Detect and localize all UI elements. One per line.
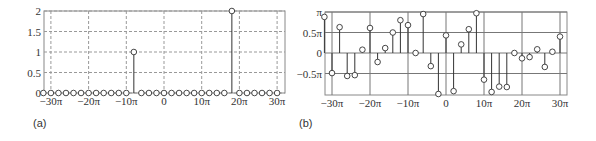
stem-marker (267, 90, 273, 96)
stem-marker (161, 90, 167, 96)
x-tick-label: 0 (443, 97, 449, 109)
stem-marker (413, 50, 419, 56)
stem-marker (199, 90, 205, 96)
stem-marker (344, 73, 350, 79)
stem-marker (184, 90, 190, 96)
panel-b-label: (b) (299, 117, 312, 129)
x-tick-label: −30π (321, 97, 344, 109)
stem-marker (398, 17, 404, 23)
stem-marker (124, 90, 130, 96)
stem-marker (557, 34, 563, 40)
stem-marker (116, 90, 122, 96)
chart-panel-a: −30π−20π−10π010π20π30π00.511.52 (27, 5, 286, 107)
stem-marker (259, 90, 265, 96)
stem-marker (71, 90, 77, 96)
stem-marker (329, 70, 335, 76)
stem-marker (191, 90, 197, 96)
stem-marker (352, 72, 358, 78)
stem-marker (131, 49, 137, 55)
stem-marker (63, 90, 69, 96)
stem-marker (41, 90, 47, 96)
x-tick-label: −30π (40, 95, 63, 107)
x-tick-label: 0 (161, 95, 167, 107)
stem-marker (527, 54, 533, 60)
stem-marker (512, 50, 518, 56)
stem-marker (214, 90, 220, 96)
stem-marker (466, 26, 472, 32)
stem-marker (48, 90, 54, 96)
stem-marker (504, 84, 510, 90)
stem-marker (451, 88, 457, 94)
stem-marker (481, 77, 487, 83)
stem-marker (244, 90, 250, 96)
x-tick-label: 10π (193, 95, 210, 107)
x-tick-label: −20π (359, 97, 382, 109)
stem-marker (322, 14, 328, 20)
stem-marker (56, 90, 62, 96)
stem-marker (176, 90, 182, 96)
x-tick-label: 20π (231, 95, 248, 107)
y-tick-label: 0 (317, 47, 323, 59)
stem-marker (496, 84, 502, 90)
stem-marker (428, 63, 434, 69)
x-tick-label: 20π (514, 97, 531, 109)
stem-marker (101, 90, 107, 96)
stem-marker (154, 90, 160, 96)
stem-marker (146, 90, 152, 96)
stem-marker (542, 64, 548, 70)
y-tick-label: 0.5π (303, 27, 323, 39)
chart-panel-b: −30π−20π−10π010π20π30ππ0.5π0−0.5π (296, 6, 568, 109)
stem-marker (382, 45, 388, 51)
stem-marker (337, 24, 343, 30)
stem-marker (274, 90, 280, 96)
stem-marker (93, 90, 99, 96)
stem-marker (420, 11, 426, 17)
stem-marker (229, 8, 235, 14)
x-tick-label: −20π (77, 95, 100, 107)
stem-marker (108, 90, 114, 96)
stem-marker (474, 10, 480, 16)
stem-marker (519, 56, 525, 62)
stem-marker (458, 42, 464, 48)
x-tick-label: 10π (476, 97, 493, 109)
y-tick-label: 1 (36, 46, 42, 58)
x-tick-label: 30π (552, 97, 569, 109)
stem-marker (169, 90, 175, 96)
stem-marker (252, 90, 258, 96)
stem-marker (550, 49, 556, 55)
stem-marker (375, 59, 381, 65)
stem-marker (390, 30, 396, 36)
stem-marker (360, 47, 366, 53)
stem-marker (489, 89, 495, 95)
x-tick-label: −10π (115, 95, 138, 107)
y-tick-label: 2 (36, 5, 42, 17)
stem-marker (222, 90, 228, 96)
stem-marker (86, 90, 92, 96)
stem-marker (139, 90, 145, 96)
stem-marker (237, 90, 243, 96)
stem-marker (78, 90, 84, 96)
stem-plots: −30π−20π−10π010π20π30π00.511.52−30π−20π−… (0, 0, 596, 141)
stem-marker (443, 33, 449, 39)
stem-marker (405, 22, 411, 28)
y-tick-label: −0.5π (296, 68, 322, 80)
stem-marker (367, 25, 373, 31)
stem-marker (534, 47, 540, 53)
stem-marker (206, 90, 212, 96)
x-tick-label: −10π (397, 97, 420, 109)
y-tick-label: 1.5 (27, 26, 41, 38)
stem-marker (436, 91, 442, 97)
x-tick-label: 30π (269, 95, 286, 107)
panel-a-label: (a) (33, 117, 46, 129)
y-tick-label: 0.5 (27, 67, 41, 79)
